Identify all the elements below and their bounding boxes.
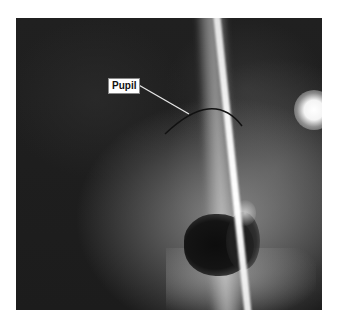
leader-line <box>137 84 189 114</box>
annotation-overlay <box>16 18 322 310</box>
pupil-label: Pupil <box>108 78 140 94</box>
pupil-margin-arc <box>165 109 242 134</box>
slit-lamp-photograph <box>16 18 322 310</box>
